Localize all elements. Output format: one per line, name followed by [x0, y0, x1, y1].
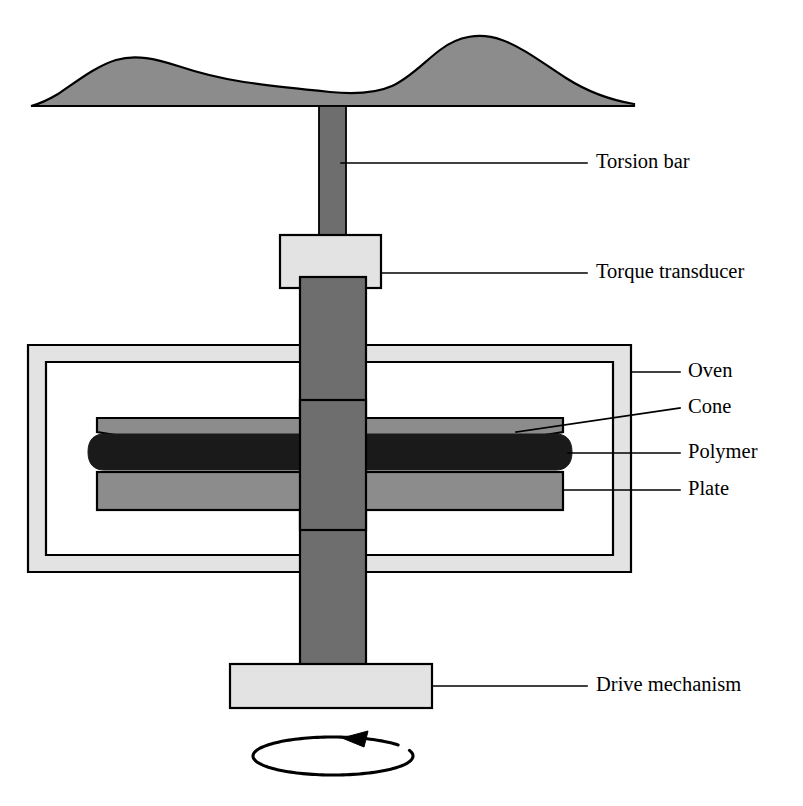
- label-cone: Cone: [688, 395, 731, 417]
- label-plate: Plate: [688, 477, 729, 499]
- label-oven: Oven: [688, 359, 732, 381]
- rotation-ellipse: [253, 737, 413, 775]
- label-torque-transducer: Torque transducer: [596, 260, 744, 283]
- label-drive-mechanism: Drive mechanism: [596, 673, 741, 695]
- label-polymer: Polymer: [688, 440, 758, 463]
- torsion-bar-shaft: [319, 106, 346, 238]
- label-torsion-bar: Torsion bar: [596, 150, 690, 172]
- diagram-canvas: Torsion barTorque transducerOvenConePoly…: [0, 0, 803, 806]
- drive-mechanism-box: [230, 664, 432, 708]
- top-wavy-mass: [31, 36, 634, 106]
- rotation-direction-arrow: [253, 731, 413, 775]
- rheometer-diagram-root: Torsion barTorque transducerOvenConePoly…: [0, 0, 803, 806]
- main-drive-shaft-overlay: [300, 400, 366, 530]
- rotation-arrowhead: [342, 731, 368, 747]
